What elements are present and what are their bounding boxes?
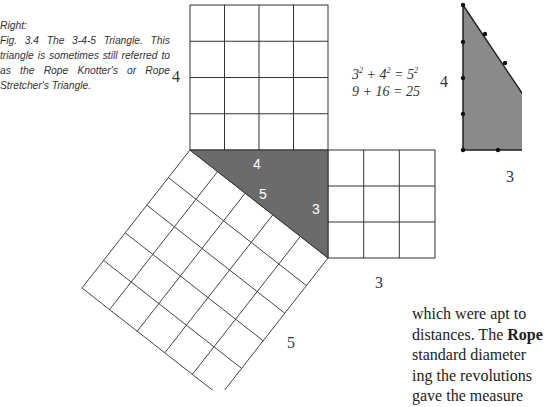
rope-triangle: 4 3 (440, 3, 522, 185)
right-square-grid (328, 150, 435, 258)
formula-line-2: 9 + 16 = 25 (352, 83, 420, 100)
body-text: which were apt to distances. The Rope st… (412, 304, 548, 407)
bold-term: Rope (507, 326, 543, 343)
body-line: which were apt to (412, 304, 548, 325)
right-square-label: 3 (375, 274, 383, 291)
triangle-label-4: 4 (253, 156, 261, 172)
hyp-square-label: 5 (287, 334, 295, 351)
triangle-label-3: 3 (312, 201, 320, 217)
body-line: distances. The Rope (412, 325, 548, 346)
formula-line-1: 32 + 42 = 52 (352, 66, 420, 83)
pythagorean-formula: 32 + 42 = 52 9 + 16 = 25 (352, 66, 420, 100)
body-line: gave the measure (412, 386, 548, 407)
rope-base-label: 3 (506, 168, 514, 185)
rope-height-label: 4 (440, 73, 448, 90)
body-line: standard diameter (412, 345, 548, 366)
top-square-label: 4 (172, 68, 180, 85)
top-square-grid (190, 5, 328, 150)
triangle-label-5: 5 (259, 186, 267, 202)
body-line: ing the revolutions (412, 366, 548, 387)
